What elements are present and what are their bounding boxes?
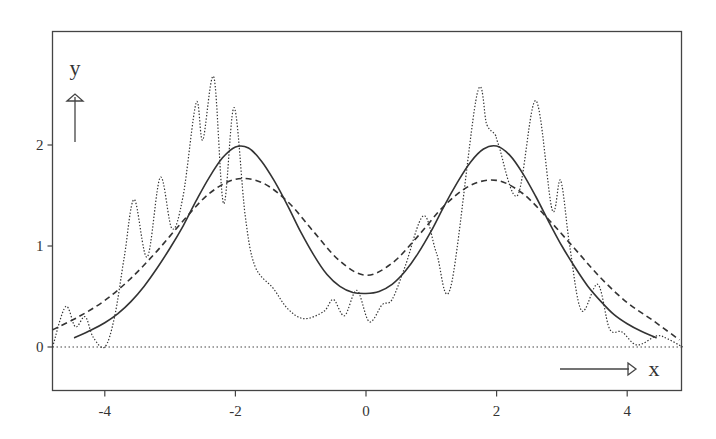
series-dashed-line	[53, 178, 680, 339]
y-axis-name: y	[70, 55, 81, 80]
x-tick-label: 4	[623, 403, 631, 419]
y-axis-arrow-icon	[67, 94, 83, 142]
x-axis-arrow-icon	[560, 363, 636, 375]
x-tick-label: 2	[493, 403, 501, 419]
x-axis-name: x	[649, 356, 660, 381]
series-layer	[53, 76, 683, 348]
x-tick-label: -4	[99, 403, 112, 419]
x-axis-ticks: -4-2024	[99, 391, 632, 419]
y-tick-label: 0	[36, 339, 44, 355]
y-tick-label: 2	[36, 137, 44, 153]
x-tick-label: -2	[229, 403, 242, 419]
y-tick-label: 1	[36, 238, 44, 254]
series-dotted-line	[53, 76, 683, 348]
chart: -4-2024 012 y x	[0, 0, 716, 439]
x-tick-label: 0	[362, 403, 370, 419]
plot-frame	[53, 32, 682, 391]
y-axis-ticks: 012	[36, 137, 53, 355]
